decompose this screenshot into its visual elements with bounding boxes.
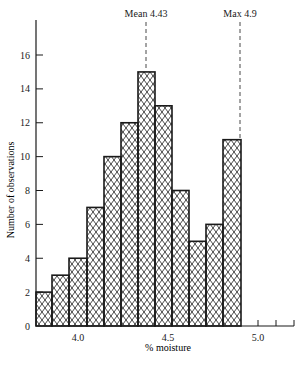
y-tick-label: 8 <box>25 185 30 196</box>
histogram-bar <box>69 258 87 326</box>
mean-annotation: Mean 4.43 <box>125 8 168 19</box>
x-axis-title: % moisture <box>145 342 191 353</box>
histogram-bar <box>223 140 241 326</box>
x-tick-label: 5.0 <box>252 332 265 343</box>
histogram-bar <box>87 207 104 326</box>
histogram-chart: 02468101214164.04.55.0 Mean 4.43Max 4.9 … <box>0 0 308 367</box>
y-tick-label: 12 <box>20 117 30 128</box>
histogram-bar <box>138 72 155 326</box>
y-tick-label: 16 <box>20 50 30 61</box>
y-tick-label: 2 <box>25 287 30 298</box>
y-tick-label: 6 <box>25 219 30 230</box>
histogram-bar <box>155 106 172 326</box>
histogram-bar <box>121 123 138 326</box>
y-tick-label: 10 <box>20 151 30 162</box>
max-annotation: Max 4.9 <box>223 8 256 19</box>
histogram-bar <box>172 191 189 327</box>
histogram-bar <box>52 275 69 326</box>
y-tick-label: 14 <box>20 83 30 94</box>
histogram-bar <box>36 292 52 326</box>
y-axis-title: Number of observations <box>5 142 16 239</box>
histogram-bar <box>189 241 206 326</box>
y-tick-label: 0 <box>25 321 30 332</box>
histogram-bar <box>206 224 223 326</box>
x-tick-label: 4.0 <box>72 332 85 343</box>
histogram-bars <box>36 72 241 326</box>
histogram-bar <box>104 157 121 326</box>
y-tick-label: 4 <box>25 253 30 264</box>
